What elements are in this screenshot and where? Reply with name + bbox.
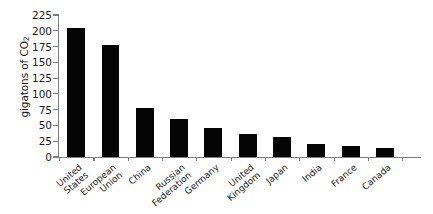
x-axis-category-labels: UnitedStatesEuropeanUnionChinaRussianFed… [0, 0, 433, 214]
bar-chart: gigatons of CO2 025507510012515017520022… [0, 0, 433, 214]
